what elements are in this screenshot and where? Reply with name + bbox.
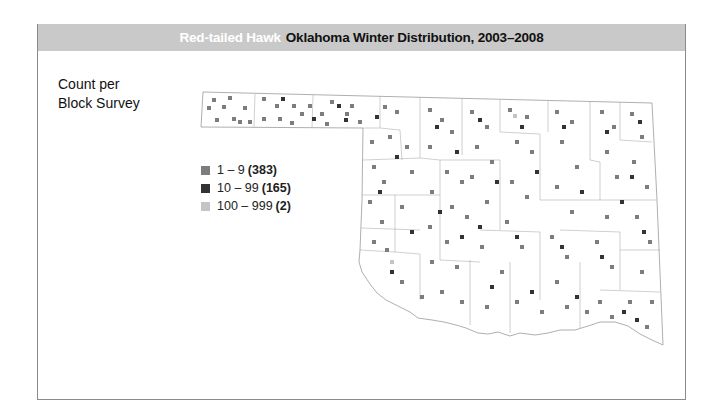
survey-blocks [207, 96, 654, 329]
state-outline [201, 92, 663, 345]
oklahoma-map [0, 0, 723, 419]
county-lines [254, 94, 660, 333]
